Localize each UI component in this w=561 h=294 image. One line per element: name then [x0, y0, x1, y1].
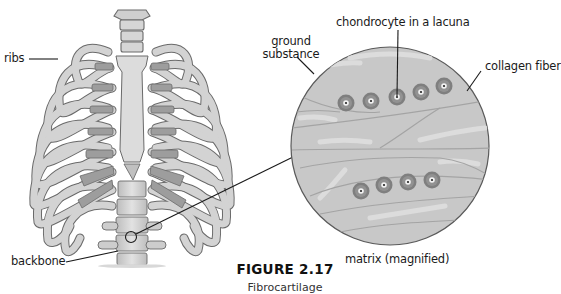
chondrocyte — [424, 172, 441, 189]
chondrocyte — [413, 84, 430, 101]
sternum — [116, 56, 148, 162]
rib-cage-illustration — [34, 10, 230, 268]
chondrocyte — [376, 177, 393, 194]
backbone-label: backbone — [11, 255, 65, 268]
ground-substance-label: ground substance — [256, 35, 326, 61]
ground-substance-line2: substance — [256, 48, 326, 61]
matrix-label: matrix (magnified) — [345, 253, 449, 266]
xiphoid-process — [124, 164, 140, 180]
chondrocyte — [436, 78, 453, 95]
chondrocyte — [363, 93, 380, 110]
figure-caption: Fibrocartilage — [220, 281, 350, 294]
neck-vertebrae — [114, 10, 150, 52]
ribs-label: ribs — [4, 52, 24, 65]
backbone-spine — [116, 181, 148, 265]
collagen-fiber-leader — [467, 71, 481, 91]
chondrocyte — [338, 95, 355, 112]
chondrocyte — [353, 183, 370, 200]
chondrocyte-label: chondrocyte in a lacuna — [336, 16, 470, 29]
figure-title: FIGURE 2.17 — [220, 261, 350, 277]
magnified-matrix — [291, 47, 490, 245]
collagen-fiber-label: collagen fiber — [485, 60, 561, 73]
chondrocyte — [400, 174, 417, 191]
